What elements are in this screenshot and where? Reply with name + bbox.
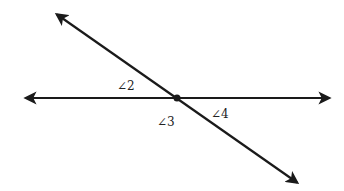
- intersection-point: [174, 95, 181, 102]
- angle-2-label: ∠2: [117, 79, 135, 93]
- angle-4-label: ∠4: [211, 107, 229, 121]
- angle-3-label: ∠3: [157, 115, 175, 129]
- diagram-canvas: [0, 0, 344, 191]
